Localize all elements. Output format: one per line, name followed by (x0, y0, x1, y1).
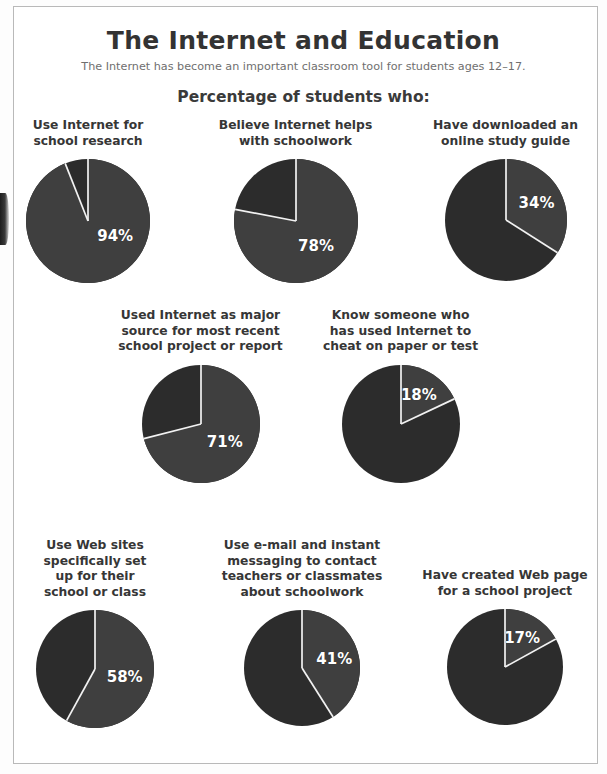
chart-cell-email-instant-messaging: Use e-mail and instant messaging to cont… (212, 538, 392, 728)
page-subtitle: The Internet has become an important cla… (0, 60, 607, 73)
page-title: The Internet and Education (0, 26, 607, 55)
chart-cell-online-study-guide: Have downloaded an online study guide 34… (428, 118, 583, 283)
pie-chart-major-source-project[interactable]: 71% (140, 363, 262, 485)
chart-cell-school-research: Use Internet for school research 94% (18, 118, 158, 285)
pie-chart-school-web-sites[interactable]: 58% (34, 608, 156, 730)
scan-edge-artifact (0, 193, 9, 245)
chart-cell-cheat-paper-test: Know someone who has used Internet to ch… (318, 308, 483, 485)
chart-cell-major-source-project: Used Internet as major source for most r… (118, 308, 283, 485)
chart-label: Believe Internet helps with schoolwork (218, 118, 373, 149)
pie-chart-school-research[interactable]: 94% (24, 157, 152, 285)
chart-label: Use Internet for school research (18, 118, 158, 149)
chart-label: Use Web sites specifically set up for th… (20, 538, 170, 600)
chart-cell-created-web-page: Have created Web page for a school proje… (421, 568, 589, 727)
infographic-poster: The Internet and Education The Internet … (0, 0, 607, 774)
pie-chart-online-study-guide[interactable]: 34% (443, 157, 569, 283)
pie-chart-email-instant-messaging[interactable]: 41% (242, 608, 362, 728)
chart-label: Know someone who has used Internet to ch… (318, 308, 483, 355)
chart-label: Have created Web page for a school proje… (421, 568, 589, 599)
chart-cell-school-web-sites: Use Web sites specifically set up for th… (20, 538, 170, 730)
pie-chart-helps-schoolwork[interactable]: 78% (232, 157, 360, 285)
pie-chart-created-web-page[interactable]: 17% (445, 607, 565, 727)
pie-chart-cheat-paper-test[interactable]: 18% (340, 363, 462, 485)
section-heading: Percentage of students who: (0, 88, 607, 106)
chart-label: Use e-mail and instant messaging to cont… (212, 538, 392, 600)
chart-cell-helps-schoolwork: Believe Internet helps with schoolwork 7… (218, 118, 373, 285)
chart-label: Used Internet as major source for most r… (118, 308, 283, 355)
chart-label: Have downloaded an online study guide (428, 118, 583, 149)
